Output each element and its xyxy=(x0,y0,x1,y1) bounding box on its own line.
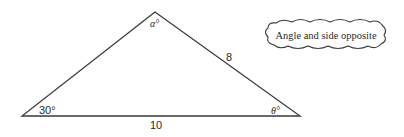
apex-angle-label: α° xyxy=(150,18,159,29)
triangle xyxy=(22,12,300,116)
right-side-label: 8 xyxy=(226,51,232,63)
callout-text: Angle and side opposite xyxy=(275,30,377,41)
left-angle-label: 30° xyxy=(39,104,56,116)
triangle-diagram: α° 30° θ° 10 8 Angle and side opposite xyxy=(0,0,404,137)
cloud-callout: Angle and side opposite xyxy=(266,20,386,49)
right-angle-label: θ° xyxy=(271,105,280,116)
base-side-label: 10 xyxy=(150,119,162,131)
